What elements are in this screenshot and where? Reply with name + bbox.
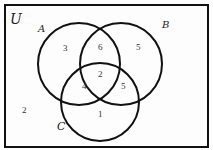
venn-diagram: U A B C 3 6 5 2 4 5 1 2 [0,0,213,150]
region-a-c: 4 [82,81,87,91]
universe-label: U [10,11,23,27]
region-b-c: 5 [121,81,126,91]
region-a-b-c: 2 [98,69,103,79]
set-c-label: C [57,120,66,133]
region-c-only: 1 [98,109,103,119]
set-a-label: A [37,23,45,34]
region-outside: 2 [22,105,27,115]
region-b-only: 5 [136,42,141,52]
set-b-label: B [161,19,169,30]
region-a-only: 3 [63,43,68,53]
region-a-b: 6 [98,42,103,52]
